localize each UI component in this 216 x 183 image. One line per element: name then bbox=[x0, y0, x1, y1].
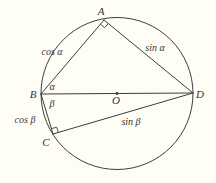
geometry-figure: A B C D O cos α sin α cos β sin β α β bbox=[0, 0, 216, 183]
segment-label-ab-cos-alpha: cos α bbox=[41, 46, 63, 57]
circle-trig-diagram: A B C D O cos α sin α cos β sin β α β bbox=[0, 0, 216, 183]
chord-cd bbox=[53, 93, 193, 134]
chord-ad bbox=[104, 20, 193, 93]
segment-label-bc-cos-beta: cos β bbox=[15, 114, 36, 125]
angle-label-alpha: α bbox=[49, 81, 55, 92]
point-label-c: C bbox=[42, 136, 50, 148]
angle-label-beta: β bbox=[49, 98, 55, 109]
right-angle-mark-a bbox=[100, 24, 108, 28]
segment-label-ad-sin-alpha: sin α bbox=[145, 42, 165, 53]
point-label-a: A bbox=[97, 5, 105, 17]
point-label-b: B bbox=[30, 88, 37, 100]
segment-label-cd-sin-beta: sin β bbox=[121, 116, 140, 127]
point-label-o: O bbox=[112, 94, 120, 106]
point-label-d: D bbox=[195, 88, 204, 100]
